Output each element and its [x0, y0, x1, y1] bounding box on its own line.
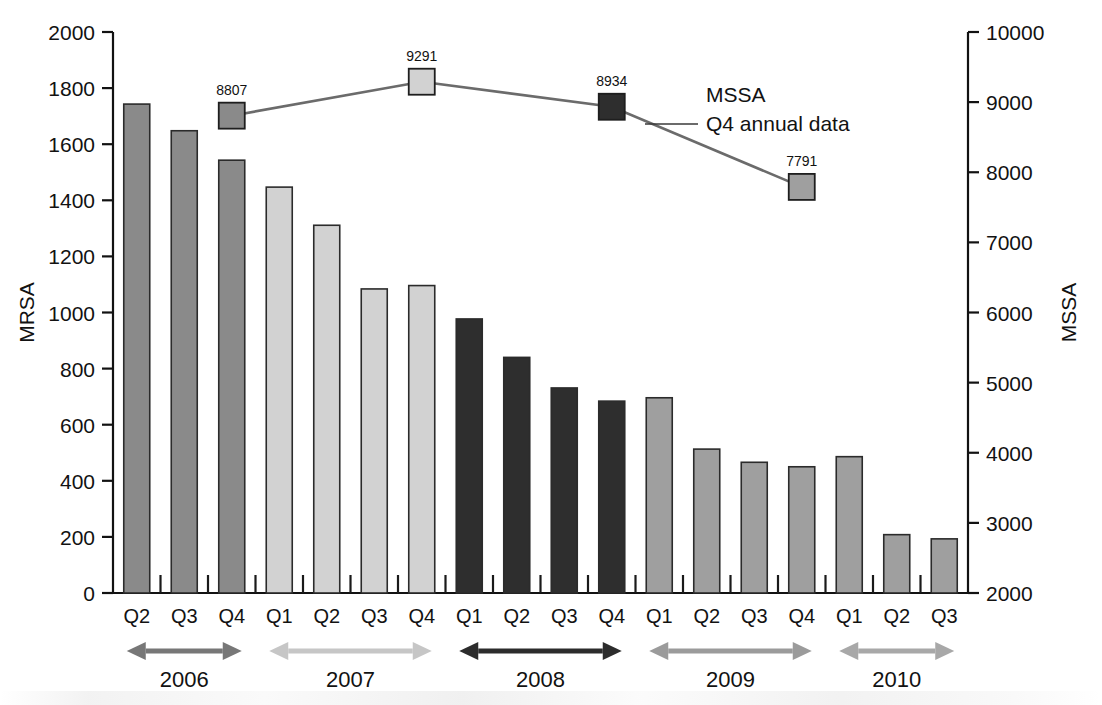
- year-label: 2007: [326, 667, 375, 692]
- bar: [171, 131, 197, 593]
- x-axis-quarter-label: Q4: [598, 605, 625, 627]
- y-axis-tick-label: 1000: [48, 302, 95, 325]
- y-axis-tick-label: 600: [60, 414, 95, 437]
- y-axis-tick-label: 1800: [48, 77, 95, 100]
- y2-axis-tick-label: 8000: [986, 161, 1033, 184]
- bar: [219, 160, 245, 593]
- bar: [504, 357, 530, 593]
- y2-axis-tick-label: 10000: [986, 21, 1044, 44]
- year-bracket: 2007: [269, 642, 432, 692]
- y-axis-tick-label: 0: [83, 582, 95, 605]
- year-arrow-head-right: [793, 642, 812, 660]
- y2-axis-tick-label: 5000: [986, 372, 1033, 395]
- y2-axis-tick-label: 7000: [986, 231, 1033, 254]
- x-axis-quarter-label: Q2: [123, 605, 150, 627]
- y-axis-tick-label: 800: [60, 358, 95, 381]
- bar: [694, 449, 720, 593]
- year-bracket: 2010: [839, 642, 954, 692]
- year-arrow-head-left: [839, 642, 858, 660]
- bar: [599, 401, 625, 593]
- mssa-data-marker: [409, 69, 435, 95]
- x-axis-quarter-label: Q4: [788, 605, 815, 627]
- chart-figure: 0200400600800100012001400160018002000200…: [0, 0, 1102, 705]
- bar: [266, 187, 292, 593]
- y2-axis-tick-label: 4000: [986, 442, 1033, 465]
- x-axis-quarter-label: Q4: [408, 605, 435, 627]
- year-arrow-head-right: [413, 642, 432, 660]
- y-axis-tick-label: 1400: [48, 189, 95, 212]
- y-axis-tick-label: 1600: [48, 133, 95, 156]
- year-arrow-head-right: [223, 642, 242, 660]
- x-axis-quarter-label: Q2: [693, 605, 720, 627]
- y2-axis-tick-label: 9000: [986, 91, 1033, 114]
- y-axis-tick-label: 200: [60, 526, 95, 549]
- year-arrow-head-left: [459, 642, 478, 660]
- x-axis-quarter-label: Q1: [646, 605, 673, 627]
- mssa-data-label: 8934: [596, 73, 627, 89]
- x-axis-quarter-label: Q1: [456, 605, 483, 627]
- legend-subtitle: Q4 annual data: [706, 112, 850, 135]
- year-arrow-head-right: [935, 642, 954, 660]
- legend-group: MSSAQ4 annual data: [645, 83, 850, 135]
- year-label: 2006: [160, 667, 209, 692]
- mssa-data-marker: [599, 94, 625, 120]
- y-axis-tick-label: 400: [60, 470, 95, 493]
- year-label: 2008: [516, 667, 565, 692]
- x-axis-quarter-label: Q1: [836, 605, 863, 627]
- mssa-data-marker: [219, 103, 245, 129]
- y-axis-tick-label: 1200: [48, 245, 95, 268]
- year-bracket: 2009: [649, 642, 812, 692]
- y2-axis-tick-label: 3000: [986, 512, 1033, 535]
- x-axis-quarter-label: Q3: [361, 605, 388, 627]
- quarter-labels-group: Q2Q3Q4Q1Q2Q3Q4Q1Q2Q3Q4Q1Q2Q3Q4Q1Q2Q3: [123, 605, 957, 627]
- bar: [551, 388, 577, 593]
- x-axis-quarter-label: Q1: [266, 605, 293, 627]
- bar: [646, 398, 672, 593]
- mssa-data-label: 9291: [406, 48, 437, 64]
- year-arrow-head-right: [603, 642, 622, 660]
- y2-axis-tick-label: 6000: [986, 302, 1033, 325]
- mrsa-mssa-dual-axis-chart: 0200400600800100012001400160018002000200…: [0, 0, 1102, 705]
- x-axis-quarter-label: Q2: [313, 605, 340, 627]
- bar: [361, 289, 387, 593]
- x-axis-quarter-label: Q4: [218, 605, 245, 627]
- x-axis-quarter-label: Q2: [883, 605, 910, 627]
- x-axis-quarter-label: Q2: [503, 605, 530, 627]
- year-arrow-head-left: [269, 642, 288, 660]
- year-arrow-head-left: [649, 642, 668, 660]
- y-axis-tick-label: 2000: [48, 21, 95, 44]
- x-axis-quarter-label: Q3: [551, 605, 578, 627]
- year-label: 2009: [706, 667, 755, 692]
- y2-axis-tick-label: 2000: [986, 582, 1033, 605]
- legend-title: MSSA: [706, 83, 766, 106]
- year-arrow-head-left: [127, 642, 146, 660]
- bar: [931, 539, 957, 593]
- bar: [456, 319, 482, 593]
- bar: [314, 225, 340, 593]
- year-label: 2010: [872, 667, 921, 692]
- bars-group: [124, 104, 958, 593]
- x-axis-quarter-label: Q3: [741, 605, 768, 627]
- bar: [884, 535, 910, 593]
- bar: [741, 462, 767, 593]
- year-bracket: 2008: [459, 642, 622, 692]
- x-axis-quarter-label: Q3: [931, 605, 958, 627]
- mssa-data-label: 8807: [216, 82, 247, 98]
- bar: [409, 286, 435, 593]
- bar: [836, 457, 862, 593]
- mssa-data-marker: [789, 174, 815, 200]
- year-bracket: 2006: [127, 642, 242, 692]
- y-axis-title: MRSA: [15, 282, 38, 343]
- year-brackets-group: 20062007200820092010: [127, 642, 955, 692]
- bar: [124, 104, 150, 593]
- x-axis-quarter-label: Q3: [171, 605, 198, 627]
- bar: [789, 467, 815, 593]
- y2-axis-title: MSSA: [1057, 283, 1080, 343]
- mssa-data-label: 7791: [786, 153, 817, 169]
